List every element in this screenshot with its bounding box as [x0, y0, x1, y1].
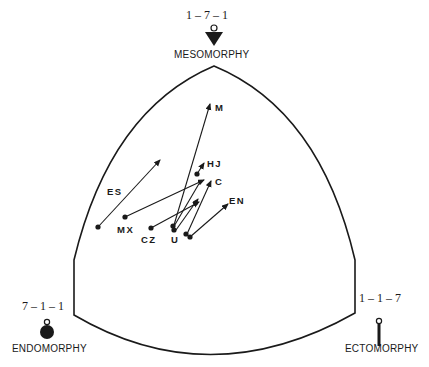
ectomorphy-rating: 1 – 1 – 7 — [359, 291, 401, 306]
label-c: C — [215, 176, 223, 187]
label-es: ES — [107, 186, 123, 197]
endomorphy-label: ENDOMORPHY — [12, 343, 87, 354]
ectomorphy-label: ECTOMORPHY — [345, 343, 419, 354]
mesomorphy-rating: 1 – 7 – 1 — [186, 8, 228, 23]
label-hj: HJ — [207, 158, 222, 169]
label-cz: CZ — [141, 234, 157, 245]
vector-origins — [95, 171, 199, 239]
endomorphy-rating: 7 – 1 – 1 — [22, 299, 64, 314]
vector-c — [187, 181, 211, 234]
mesomorphy-label: MESOMORPHY — [174, 49, 249, 60]
label-en: EN — [229, 195, 245, 206]
vector-en — [190, 204, 228, 237]
label-mx: MX — [117, 224, 134, 235]
label-u: U — [171, 234, 179, 245]
ectomorphy-icon — [376, 318, 381, 346]
endomorphy-icon — [40, 319, 54, 339]
mesomorphy-icon — [205, 25, 223, 46]
vector-u — [173, 182, 200, 228]
label-m: M — [215, 102, 224, 113]
